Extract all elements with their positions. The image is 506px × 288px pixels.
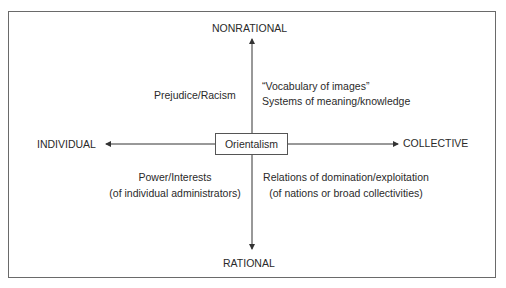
quadrant-bottom-right-line2: (of nations or broad collectivities) — [256, 187, 436, 200]
quadrant-bottom-left-line2: (of individual administrators) — [105, 187, 245, 200]
axis-label-rational: RATIONAL — [223, 257, 275, 270]
axis-label-collective: COLLECTIVE — [403, 137, 468, 150]
axis-label-individual: INDIVIDUAL — [37, 138, 96, 151]
quadrant-top-left-line1: Prejudice/Racism — [154, 89, 236, 102]
quadrant-bottom-right-line1: Relations of domination/exploitation — [256, 171, 436, 184]
center-box-orientalism: Orientalism — [215, 133, 288, 155]
axis-label-nonrational: NONRATIONAL — [212, 22, 287, 35]
quadrant-top-right-line2: Systems of meaning/knowledge — [262, 95, 410, 108]
quadrant-top-right-line1: “Vocabulary of images” — [262, 80, 369, 93]
quadrant-bottom-left-line1: Power/Interests — [105, 171, 245, 184]
